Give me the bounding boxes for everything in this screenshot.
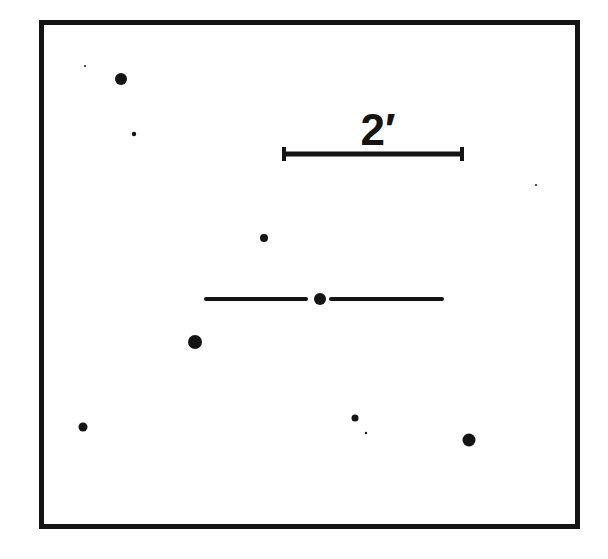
star xyxy=(188,335,202,349)
star xyxy=(365,432,367,434)
star xyxy=(79,423,88,432)
star xyxy=(535,184,537,186)
star xyxy=(463,434,476,447)
scale-bar-label: 2′ xyxy=(356,108,400,152)
star-field xyxy=(79,65,538,447)
target-star xyxy=(314,293,326,305)
star xyxy=(132,132,136,136)
target-marker xyxy=(206,293,442,305)
star xyxy=(352,415,359,422)
star xyxy=(84,65,86,67)
star xyxy=(260,234,268,242)
star xyxy=(115,73,127,85)
finder-chart xyxy=(0,0,608,559)
